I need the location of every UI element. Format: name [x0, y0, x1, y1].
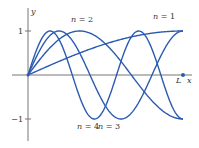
- series-label: n = 4: [77, 122, 99, 131]
- y-axis-label: y: [30, 7, 36, 16]
- endpoint-dot: [181, 73, 185, 77]
- L-label: L: [175, 76, 181, 85]
- x-axis-label: x: [187, 76, 192, 85]
- standing-wave-chart: 1−1yxLn = 1n = 2n = 3n = 4: [0, 0, 199, 148]
- series-label: n = 1: [153, 12, 175, 21]
- y-tick-label: −1: [11, 115, 23, 124]
- y-tick-label: 1: [18, 27, 23, 36]
- curve-n1: [28, 31, 183, 75]
- series-label: n = 2: [71, 15, 93, 24]
- series-label: n = 3: [98, 122, 120, 131]
